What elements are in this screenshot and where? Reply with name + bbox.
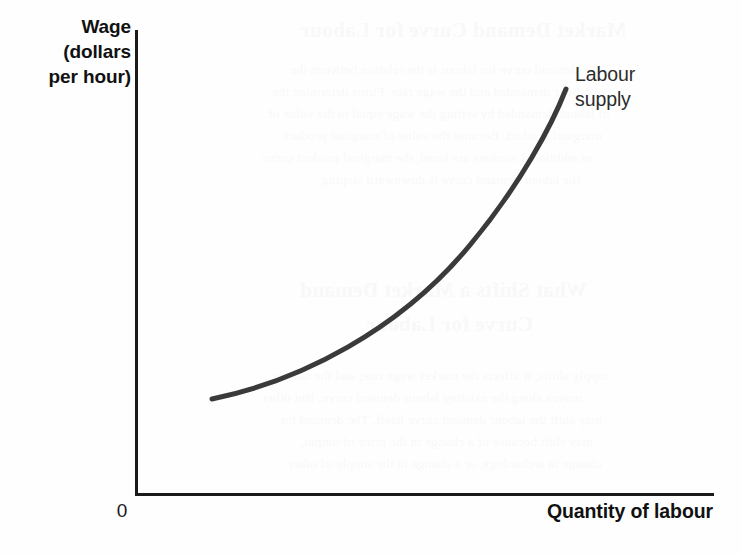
labour-supply-curve <box>212 89 566 399</box>
labour-supply-curve-label: Labour supply <box>575 62 635 112</box>
labour-supply-figure: Market Demand Curve for Labour demand cu… <box>0 0 742 556</box>
curve-label-line-2: supply <box>575 87 635 112</box>
curve-label-line-1: Labour <box>575 62 635 87</box>
